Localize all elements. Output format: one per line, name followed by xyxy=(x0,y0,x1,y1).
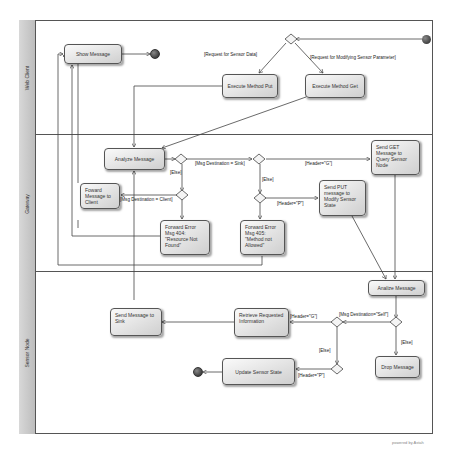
guard-msg-destination-self: [Msg Destination="Self"] xyxy=(339,312,388,317)
decision-client-else xyxy=(176,190,188,200)
activity-analize-message-sensor[interactable]: Analize Message xyxy=(368,280,425,296)
decision-header-gw xyxy=(253,154,265,164)
guard-header-g-gateway: [Header="G"] xyxy=(305,161,332,166)
activity-retrieve-requested-information[interactable]: Retrieve Requested Information xyxy=(234,308,289,337)
decision-msg-self xyxy=(390,317,402,327)
decision-header-sn xyxy=(331,317,343,327)
guard-request-modify-parameter: [Request for Modifying Sensor Parameter] xyxy=(310,55,396,60)
decision-header-p-sn xyxy=(331,364,343,374)
guard-header-p-gateway: [Header="P"] xyxy=(277,201,304,206)
activity-send-put-message[interactable]: Send PUT message to Modify Sensor State xyxy=(319,180,366,216)
activity-send-get-message[interactable]: Send GET Message to Query Sensor Node xyxy=(371,140,420,175)
activity-drop-message[interactable]: Drop Message xyxy=(375,356,420,378)
guard-else-2: [Else] xyxy=(262,177,274,182)
guard-request-sensor-data: [Request for Sensor Data] xyxy=(204,52,257,57)
activity-update-sensor-state[interactable]: Update Sensor State xyxy=(222,358,295,385)
guard-else-3: [Else] xyxy=(401,340,413,345)
activity-forward-error-404[interactable]: Forward Error Msg 404: "Resource Not Fou… xyxy=(160,220,210,255)
final-node-sensor xyxy=(193,367,203,377)
guard-msg-destination-sink: [Msg Destination = Sink] xyxy=(195,161,245,166)
edges-layer xyxy=(0,0,453,459)
guard-header-g-sensor: [Header="G"] xyxy=(290,314,317,319)
initial-node xyxy=(422,35,431,44)
final-node-web-client xyxy=(150,49,160,59)
activity-forward-error-405[interactable]: Forward Error Msg 405: "Method not Allow… xyxy=(240,220,285,255)
decision-msg-destination xyxy=(175,154,187,164)
activity-send-message-to-sink[interactable]: Send Message to Sink xyxy=(110,308,162,336)
guard-else-4: [Else] xyxy=(319,348,331,353)
decision-header-p-gw xyxy=(254,193,266,203)
decision-request-type xyxy=(285,34,297,44)
activity-diagram: Web Client Gateway Sensor Node xyxy=(0,0,453,459)
activity-forward-message-to-client[interactable]: Foward Message to Client xyxy=(80,183,120,209)
activity-execute-method-get[interactable]: Execute Method Get xyxy=(305,74,365,98)
guard-header-p-sensor: [Header="P"] xyxy=(298,373,325,378)
guard-else-1: [Else] xyxy=(170,170,182,175)
watermark: powered by Astah xyxy=(392,440,424,445)
activity-execute-method-put[interactable]: Execute Method Put xyxy=(222,74,278,98)
activity-show-message[interactable]: Show Message xyxy=(64,44,122,64)
activity-analyze-message-gateway[interactable]: Analyze Message xyxy=(104,148,165,170)
guard-msg-destination-client: [Msg Destination = Client] xyxy=(120,197,172,202)
